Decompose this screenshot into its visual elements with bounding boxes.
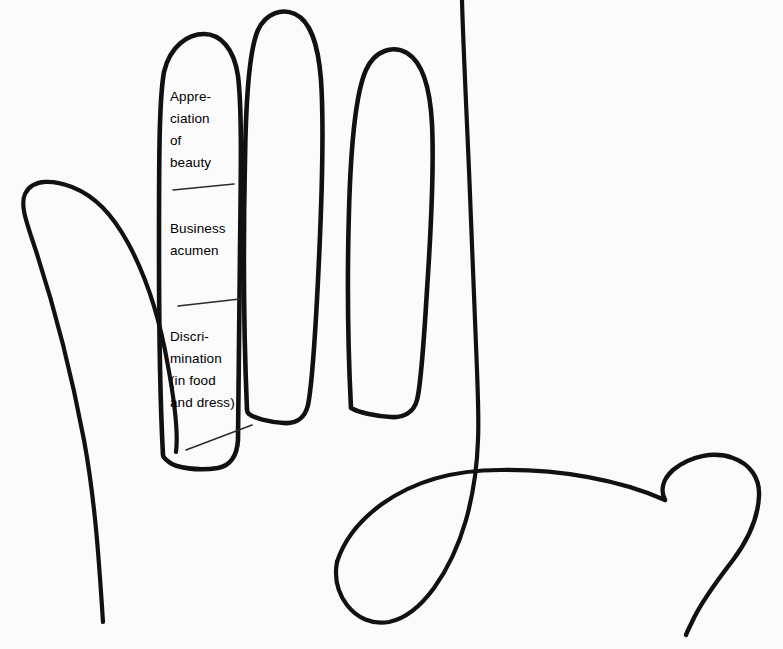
hand-diagram-canvas: Appre- ciation of beauty Business acumen… [0,0,783,649]
outer-finger-outline [23,182,176,622]
hand-outline-illustration [0,0,783,649]
middle-finger-outline [244,12,322,424]
phalanx-divider-bottom [178,299,240,306]
palm-lower-contour [337,470,665,562]
ring-finger-outline [348,49,433,417]
annotation-discrimination: Discri- mination (in food and dress) [170,326,235,414]
annotation-appreciation-of-beauty: Appre- ciation of beauty [170,86,211,174]
annotation-business-acumen: Business acumen [170,218,226,262]
thumb-outline [663,455,759,635]
phalanx-divider-top [173,184,234,190]
phalanx-base-leader-line [186,425,252,450]
